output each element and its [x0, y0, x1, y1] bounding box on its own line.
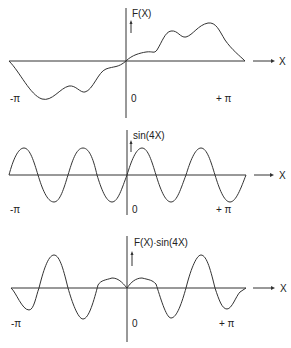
- x-min-label: -π: [10, 204, 20, 215]
- x-max-label: + π: [216, 93, 232, 104]
- panel-sin4x: X sin(4X) -π 0 + π: [9, 130, 286, 215]
- y-axis-title: F(X)∙sin(4X): [134, 237, 188, 248]
- x-axis-label: X: [279, 170, 286, 181]
- panel-fx: X F(X) -π 0 + π: [9, 8, 286, 118]
- y-axis-title: sin(4X): [133, 130, 165, 141]
- x-axis-label: X: [279, 56, 286, 67]
- x-axis-label: X: [280, 283, 287, 294]
- x-zero-label: 0: [132, 204, 138, 215]
- x-arrow-icon: [271, 59, 275, 63]
- panel-product: X F(X)∙sin(4X) -π 0 + π: [11, 236, 287, 342]
- x-arrow-icon: [270, 173, 274, 177]
- x-arrow-icon: [271, 286, 275, 290]
- x-min-label: -π: [10, 93, 20, 104]
- x-zero-label: 0: [132, 318, 138, 329]
- x-zero-label: 0: [131, 93, 137, 104]
- y-axis-title: F(X): [132, 8, 151, 19]
- y-arrow-icon: [131, 251, 134, 255]
- y-arrow-icon: [130, 20, 133, 24]
- x-max-label: + π: [219, 318, 235, 329]
- diagram-canvas: X F(X) -π 0 + π X sin(4X) -π 0 + π X F(X…: [0, 0, 291, 348]
- x-min-label: -π: [11, 318, 21, 329]
- x-max-label: + π: [216, 204, 232, 215]
- product-curve: [11, 255, 246, 319]
